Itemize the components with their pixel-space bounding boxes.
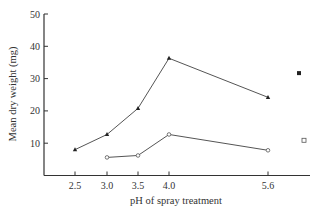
axes: 10203040502.53.03.54.05.6 [30, 9, 310, 192]
x-tick-label: 3.0 [101, 180, 114, 191]
series-layer [73, 56, 270, 159]
annotation-markers [297, 71, 306, 142]
circle-marker [105, 156, 109, 160]
y-tick-label: 50 [30, 9, 40, 20]
x-tick-label: 5.6 [262, 180, 275, 191]
y-tick-label: 10 [30, 138, 40, 149]
triangle-marker [167, 56, 171, 60]
circle-marker [167, 133, 171, 137]
x-axis-title: pH of spray treatment [130, 195, 222, 206]
y-tick-label: 40 [30, 41, 40, 52]
series-line [75, 58, 268, 149]
x-tick-label: 2.5 [69, 180, 82, 191]
x-tick-label: 4.0 [163, 180, 176, 191]
circle-marker [136, 154, 140, 158]
circle-marker [266, 149, 270, 153]
line-chart: 10203040502.53.03.54.05.6 pH of spray tr… [0, 0, 318, 214]
y-tick-label: 20 [30, 105, 40, 116]
y-axis-title: Mean dry weight (mg) [7, 46, 19, 141]
filled-square-marker [297, 71, 301, 75]
x-tick-label: 3.5 [132, 180, 145, 191]
open-square-marker [302, 138, 306, 142]
y-tick-label: 30 [30, 73, 40, 84]
series-line [107, 134, 268, 157]
